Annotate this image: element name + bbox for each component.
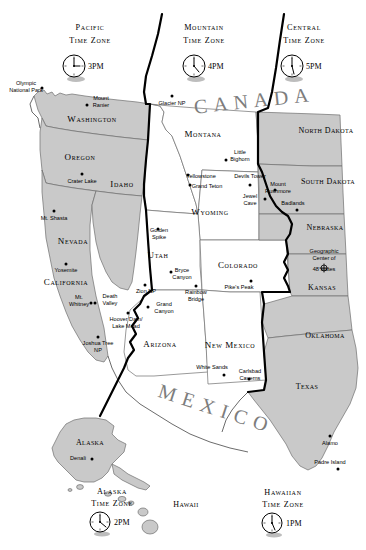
poi-carlsbad-caverns[interactable]: Carlsbad Caverns xyxy=(239,368,261,381)
state-label-utah: Utah xyxy=(148,250,169,260)
poi-label-crater-lake: Crater Lake xyxy=(67,178,96,184)
poi-label-whitney-line1: Mt. xyxy=(75,294,83,300)
poi-label-badlands: Badlands xyxy=(281,200,305,206)
poi-grand-teton[interactable]: Grand Teton xyxy=(189,183,223,189)
state-label-oklahoma: Oklahoma xyxy=(305,331,345,340)
poi-label-rainbow-line2: Bridge xyxy=(188,296,204,302)
poi-label-grand-canyon-line2: Canyon xyxy=(154,308,173,314)
poi-label-jewel-line2: Cave xyxy=(243,200,256,206)
poi-label-jewel-line1: Jewel xyxy=(243,193,257,199)
tz-hawaiian-hour-label: 1PM xyxy=(286,519,302,528)
tz-alaska-hour-label: 2PM xyxy=(114,518,130,527)
poi-label-olympic-line2: National Park xyxy=(9,87,43,93)
state-label-texas: Texas xyxy=(296,382,319,391)
state-label-montana: Montana xyxy=(184,129,221,139)
poi-label-olympic-line1: Olympic xyxy=(16,80,36,86)
tz-central-title-line1: Central xyxy=(287,23,321,32)
state-label-north-dakota: North Dakota xyxy=(299,126,354,135)
poi-label-death-line2: Valley xyxy=(103,300,118,306)
poi-label-golden-line1: Golden xyxy=(150,227,168,233)
state-label-arizona: Arizona xyxy=(143,339,176,349)
state-label-california: California xyxy=(44,277,88,287)
poi-label-bryce-line1: Bryce xyxy=(175,267,189,273)
state-label-wyoming: Wyoming xyxy=(191,207,228,217)
poi-label-geocenter-line3: 48 states xyxy=(313,266,336,272)
tz-mountain-title-line1: Mountain xyxy=(184,23,224,32)
poi-label-geocenter-line1: Geographic xyxy=(310,248,339,254)
poi-label-ranier-line1: Mount xyxy=(93,95,109,101)
tz-pacific-title-line1: Pacific xyxy=(75,23,104,32)
poi-label-golden-line2: Spike xyxy=(152,234,166,240)
poi-label-rushmore-line2: Rushmore xyxy=(265,188,291,194)
tz-mountain-hour-label: 4PM xyxy=(208,62,224,71)
poi-label-rushmore-line1: Mount xyxy=(270,181,286,187)
poi-label-bryce-line2: Canyon xyxy=(172,274,191,280)
map-canvas: C A N A D A M E X I C O Pacific Time Zon… xyxy=(0,0,366,550)
state-label-idaho: Idaho xyxy=(110,179,133,189)
poi-label-hoover-line2: Lake Mead xyxy=(112,323,140,329)
tz-alaska-title-line2: Time Zone xyxy=(91,499,133,508)
state-label-alaska: Alaska xyxy=(76,438,104,447)
tz-central-title-line2: Time Zone xyxy=(283,36,325,45)
tz-pacific-title-line2: Time Zone xyxy=(69,36,111,45)
poi-label-pikes-peak: Pike's Peak xyxy=(224,284,253,290)
poi-label-white-sands: White Sands xyxy=(196,364,228,370)
tz-alaska-title-line1: Alaska xyxy=(97,487,127,496)
poi-label-alamo: Alamo xyxy=(322,440,338,446)
state-label-colorado: Colorado xyxy=(218,260,258,270)
poi-label-glacier-np: Glacier NP xyxy=(158,100,185,106)
poi-label-bighorn-line2: Bighorn xyxy=(230,156,249,162)
state-label-washington: Washington xyxy=(67,114,116,124)
state-label-south-dakota: South Dakota xyxy=(301,177,355,186)
poi-golden-spike[interactable]: Golden Spike xyxy=(150,227,168,240)
poi-label-rainbow-line1: Rainbow xyxy=(185,289,208,295)
poi-label-joshua-line2: NP xyxy=(94,347,102,353)
state-label-nebraska: Nebraska xyxy=(307,223,344,232)
poi-label-mt-shasta: Mt. Shasta xyxy=(41,215,69,221)
poi-label-devils-tower: Devils Tower xyxy=(234,173,266,179)
state-label-new-mexico: New Mexico xyxy=(205,340,255,350)
tz-hawaiian-title-line2: Time Zone xyxy=(262,500,304,509)
poi-label-grand-canyon-line1: Grand xyxy=(156,301,172,307)
poi-label-grand-teton: Grand Teton xyxy=(192,183,223,189)
poi-label-padre-island: Padre Island xyxy=(314,459,345,465)
poi-label-death-line1: Death xyxy=(103,293,118,299)
poi-label-yosemite: Yosemite xyxy=(55,267,78,273)
timezone-map: C A N A D A M E X I C O Pacific Time Zon… xyxy=(0,0,366,550)
poi-label-denali: Denali xyxy=(70,455,86,461)
poi-label-geocenter-line2: Center of xyxy=(312,255,335,261)
state-label-oregon: Oregon xyxy=(65,152,96,162)
tz-pacific-hour-label: 3PM xyxy=(88,62,104,71)
poi-label-carlsbad-line2: Caverns xyxy=(240,375,261,381)
state-shape-north-dakota[interactable] xyxy=(256,112,342,166)
poi-label-yellowstone: Yellowstone xyxy=(186,173,216,179)
poi-label-hoover-line1: Hoover Dam/ xyxy=(110,316,143,322)
poi-label-joshua-line1: Joshua Tree xyxy=(83,340,114,346)
state-label-kansas: Kansas xyxy=(308,283,336,292)
tz-hawaiian-title-line1: Hawaiian xyxy=(264,488,301,497)
poi-label-zion-np: Zion NP xyxy=(136,288,156,294)
state-label-nevada: Nevada xyxy=(58,236,88,246)
poi-label-bighorn-line1: Little xyxy=(234,149,246,155)
poi-geographic-center[interactable]: Geographic Center of 48 states xyxy=(310,248,339,272)
tz-central-hour-label: 5PM xyxy=(306,62,322,71)
tz-mountain-title-line2: Time Zone xyxy=(183,36,225,45)
poi-label-carlsbad-line1: Carlsbad xyxy=(239,368,261,374)
poi-label-whitney-line2: Whitney xyxy=(69,301,89,307)
poi-label-ranier-line2: Ranier xyxy=(93,102,110,108)
poi-yellowstone[interactable]: Yellowstone xyxy=(186,173,216,179)
state-label-hawaii: Hawaii xyxy=(173,500,198,509)
